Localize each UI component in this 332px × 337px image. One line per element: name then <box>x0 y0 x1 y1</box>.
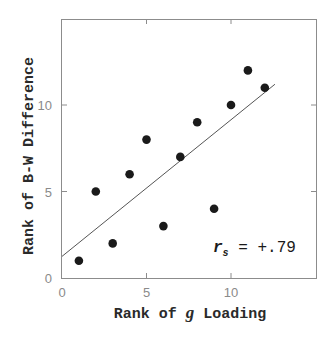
correlation-annotation: rs = +.79 <box>213 239 296 259</box>
data-point <box>210 205 219 214</box>
x-tick-label: 5 <box>143 285 150 300</box>
data-point <box>193 118 202 127</box>
y-axis-title: Rank of B-W Difference <box>21 57 38 255</box>
data-point <box>75 256 84 265</box>
regression-line <box>62 84 275 256</box>
data-point <box>244 66 253 75</box>
data-points <box>75 66 270 265</box>
x-tick-label: 10 <box>224 285 238 300</box>
data-point <box>227 101 236 110</box>
data-point <box>261 83 270 92</box>
x-tick-label: 0 <box>58 285 65 300</box>
y-tick-label: 0 <box>45 271 52 286</box>
scatter-chart: 0510 0510 rs = +.79 Rank of g Loading Ra… <box>0 0 332 337</box>
x-axis-title: Rank of g Loading <box>114 303 267 323</box>
data-point <box>142 135 151 144</box>
data-point <box>125 170 134 179</box>
data-point <box>108 239 117 248</box>
data-point <box>159 222 168 231</box>
x-axis-ticks: 0510 <box>58 19 238 300</box>
data-point <box>176 153 185 162</box>
y-tick-label: 5 <box>45 185 52 200</box>
data-point <box>92 187 101 196</box>
y-tick-label: 10 <box>38 98 52 113</box>
